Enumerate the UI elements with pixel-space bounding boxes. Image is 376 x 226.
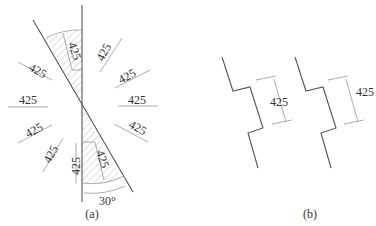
dimension-label: 425: [128, 93, 146, 107]
panel-a-caption: (a): [85, 207, 98, 221]
dim-line: [256, 76, 276, 80]
panel-b: 425 425 (b): [222, 57, 374, 221]
dimension-label: 425: [93, 41, 114, 63]
zigzag-joint-left: [222, 57, 263, 168]
zigzag-joint-right: [295, 57, 336, 168]
dimension-label: 425: [116, 66, 138, 87]
dimension-label: 425: [27, 60, 49, 81]
lower-hatched-sector: [82, 108, 121, 184]
panel-b-caption: (b): [303, 207, 317, 221]
dim-line: [272, 120, 292, 124]
dimension-label: 425: [127, 117, 149, 138]
dimension-label: 425: [69, 157, 83, 175]
dim-line: [344, 120, 364, 124]
dim-line: [328, 76, 348, 80]
angle-arc: [84, 186, 125, 193]
dimension-label: 425: [19, 93, 37, 107]
dimension-label: 425: [23, 120, 45, 141]
dimension-label: 425: [270, 95, 288, 109]
panel-a: 425 425 425 425 425 425 425 425 425 425 …: [8, 5, 158, 221]
diagram-canvas: 425 425 425 425 425 425 425 425 425 425 …: [0, 0, 376, 226]
dimension-label: 425: [356, 85, 374, 99]
angle-label: 30°: [99, 194, 116, 208]
